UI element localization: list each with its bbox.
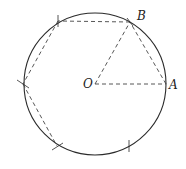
label-o: O [83,77,93,91]
radius-ob [95,22,130,84]
chord-b-top-left [58,21,130,22]
label-b: B [136,9,146,23]
tick-mark [17,80,29,88]
chord-top-left-left [23,21,58,84]
chord-ab [130,22,166,84]
hexagon-construction-diagram: O A B [0,0,186,169]
label-a: A [168,78,178,92]
chord-left-bottom-left [23,84,57,146]
